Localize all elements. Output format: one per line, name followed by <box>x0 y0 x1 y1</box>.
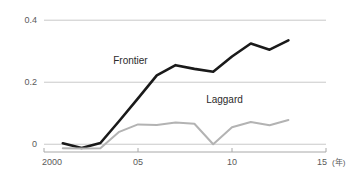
x-tick-label: 05 <box>133 157 143 167</box>
y-tick-label: 0 <box>32 139 37 149</box>
data-series <box>63 40 289 148</box>
y-axis-tick-labels: 00.20.4 <box>24 15 37 149</box>
gridlines <box>44 20 326 144</box>
x-axis-unit-label: (年) <box>332 157 346 167</box>
x-axis-tick-labels: 2000051015 <box>42 157 327 167</box>
x-tick-label: 2000 <box>42 157 62 167</box>
x-tick-label: 10 <box>227 157 237 167</box>
series-line-frontier <box>63 40 289 148</box>
chart-container: 00.20.4 2000051015 FrontierLaggard (年) <box>0 0 361 170</box>
line-chart: 00.20.4 2000051015 FrontierLaggard (年) <box>0 0 361 170</box>
series-label-frontier: Frontier <box>113 55 148 66</box>
series-label-laggard: Laggard <box>206 94 243 105</box>
y-tick-label: 0.2 <box>24 77 37 87</box>
x-tick-label: 15 <box>317 157 327 167</box>
y-tick-label: 0.4 <box>24 15 37 25</box>
x-axis-unit-label-text: (年) <box>332 157 346 167</box>
